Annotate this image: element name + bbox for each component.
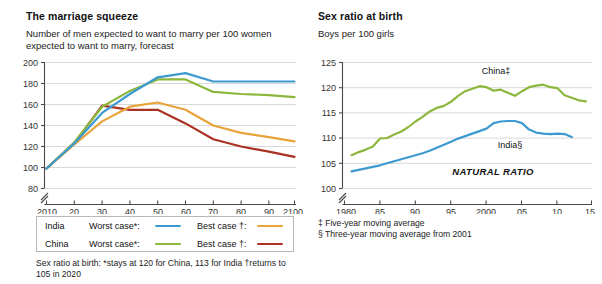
svg-text:125: 125 (321, 58, 336, 68)
svg-text:15: 15 (585, 207, 595, 214)
legend-country-china: China (45, 239, 89, 249)
svg-text:110: 110 (322, 133, 336, 143)
right-chart-title: Sex ratio at birth (318, 10, 403, 22)
svg-text:90: 90 (410, 207, 420, 214)
svg-text:2000: 2000 (476, 207, 496, 214)
series-china-sex-ratio (352, 85, 586, 156)
legend-swatch-india-worst (155, 225, 181, 228)
right-x-tick-labels: 1980 85 90 95 2000 05 10 15 (336, 207, 595, 214)
svg-text:1980: 1980 (336, 207, 356, 214)
svg-text:20: 20 (69, 207, 79, 214)
right-chart-footnote-1: ‡ Five-year moving average (318, 218, 425, 229)
legend-india-worst-label: Worst case*: (89, 221, 140, 231)
svg-text:160: 160 (23, 100, 38, 110)
left-y-axis (41, 62, 45, 189)
svg-text:90: 90 (264, 207, 274, 214)
series-india-worst-case (47, 73, 295, 168)
left-x-tick-labels: 2010 20 30 40 50 60 70 80 90 2100 (37, 207, 303, 214)
svg-text:95: 95 (446, 207, 456, 214)
svg-text:50: 50 (153, 207, 163, 214)
left-chart-subtitle: Number of men expected to want to marry … (26, 28, 294, 52)
right-line-chart: 125 120 115 110 105 100 1980 85 90 95 20… (310, 52, 602, 214)
annotation-china: China‡ (482, 66, 511, 76)
legend-india-best-label: Best case †: (197, 221, 247, 231)
legend-swatch-china-worst (155, 243, 181, 246)
legend-row-china: China Worst case*: Best case †: (37, 235, 293, 253)
legend-row-india: India Worst case*: Best case †: (37, 217, 293, 235)
left-line-chart: 200 180 160 140 120 100 80 2010 20 30 40… (0, 52, 310, 214)
svg-text:140: 140 (23, 121, 38, 131)
panel-sex-ratio-at-birth: Sex ratio at birth Boys per 100 girls (310, 0, 602, 284)
svg-text:80: 80 (28, 184, 38, 194)
legend-country-india: India (45, 221, 89, 231)
svg-text:40: 40 (125, 207, 135, 214)
right-plot-area: 125 120 115 110 105 100 1980 85 90 95 20… (310, 52, 602, 214)
right-y-tick-labels: 125 120 115 110 105 100 (321, 58, 336, 194)
svg-text:05: 05 (517, 207, 527, 214)
svg-text:80: 80 (236, 207, 246, 214)
svg-text:60: 60 (181, 207, 191, 214)
legend-china-worst-label: Worst case*: (89, 239, 140, 249)
legend-china-best-label: Best case †: (197, 239, 247, 249)
left-chart-legend: India Worst case*: Best case †: China Wo… (36, 216, 294, 252)
legend-swatch-china-best (257, 243, 283, 246)
panel-marriage-squeeze: The marriage squeeze Number of men expec… (0, 0, 310, 284)
annotation-india: India§ (498, 140, 523, 150)
svg-text:70: 70 (208, 207, 218, 214)
svg-text:85: 85 (375, 207, 385, 214)
svg-text:2100: 2100 (283, 207, 303, 214)
right-y-axis (339, 62, 343, 189)
right-chart-footnote-2: § Three-year moving average from 2001 (318, 229, 472, 240)
svg-text:120: 120 (321, 83, 336, 93)
right-x-axis (343, 201, 593, 205)
left-plot-area: 200 180 160 140 120 100 80 2010 20 30 40… (0, 52, 310, 214)
svg-text:10: 10 (552, 207, 562, 214)
legend-swatch-india-best (257, 225, 283, 228)
left-chart-title: The marriage squeeze (26, 10, 138, 22)
series-china-worst-case (47, 79, 295, 168)
svg-text:200: 200 (23, 58, 38, 68)
svg-text:120: 120 (23, 142, 38, 152)
left-x-axis (45, 201, 297, 205)
svg-text:2010: 2010 (37, 207, 57, 214)
chart-page: The marriage squeeze Number of men expec… (0, 0, 602, 284)
svg-text:30: 30 (97, 207, 107, 214)
svg-text:100: 100 (321, 184, 336, 194)
annotation-natural-ratio: NATURAL RATIO (452, 166, 534, 177)
left-chart-footnote: Sex ratio at birth: *stays at 120 for Ch… (36, 258, 298, 279)
svg-text:115: 115 (322, 108, 336, 118)
right-chart-subtitle: Boys per 100 girls (318, 28, 394, 40)
series-india-best-case (47, 103, 295, 169)
svg-text:180: 180 (23, 79, 38, 89)
left-y-tick-labels: 200 180 160 140 120 100 80 (23, 58, 38, 194)
svg-text:105: 105 (321, 159, 336, 169)
svg-text:100: 100 (23, 163, 38, 173)
